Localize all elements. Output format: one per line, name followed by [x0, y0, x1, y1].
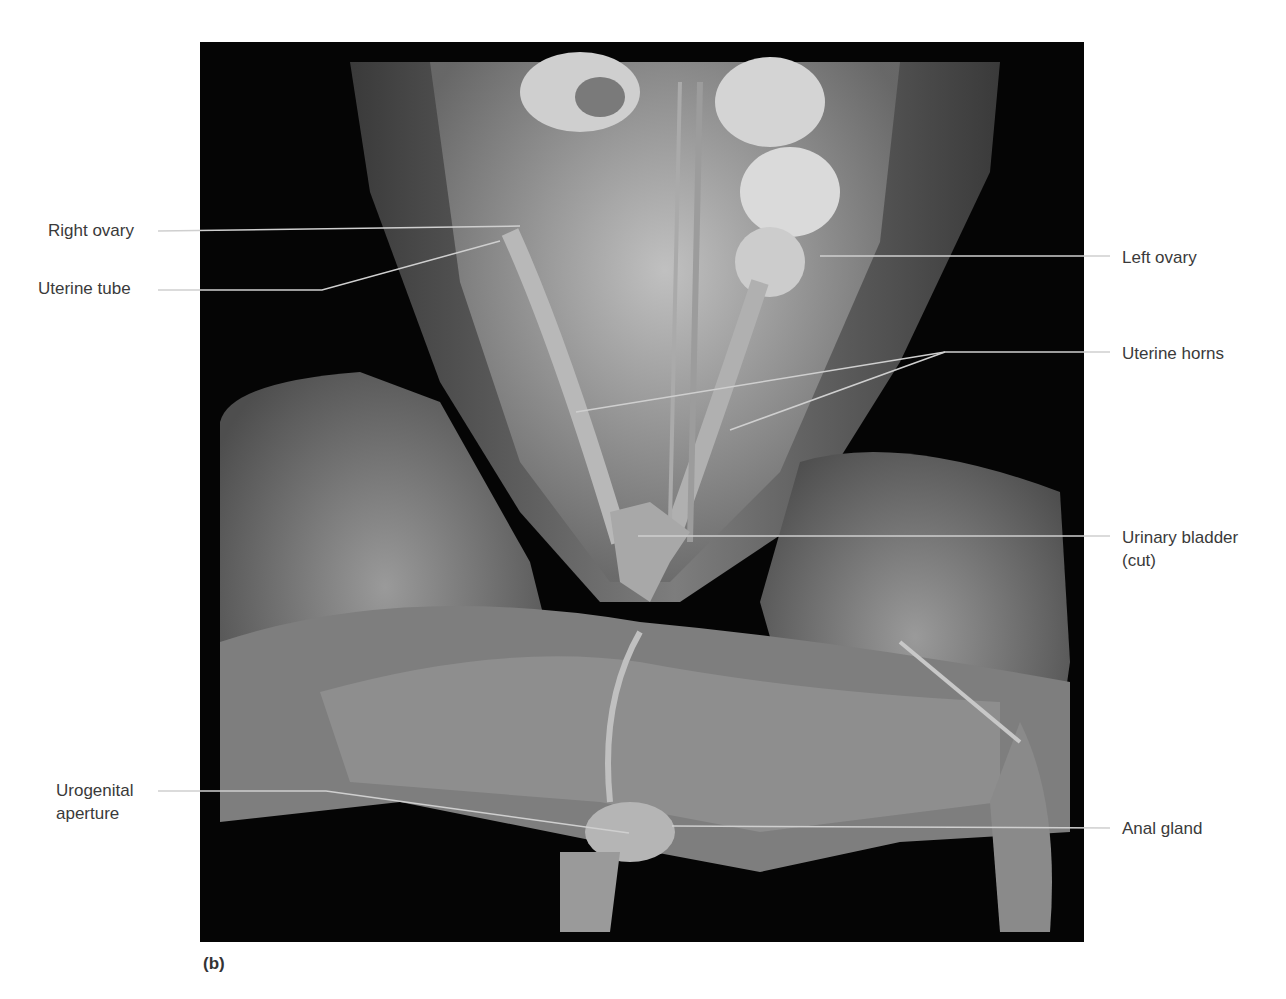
label-urogenital-line2: aperture: [56, 802, 134, 825]
panel-letter: (b): [203, 954, 225, 974]
label-urogenital-line1: Urogenital: [56, 779, 134, 802]
dissection-photo: [200, 42, 1084, 942]
label-left-ovary: Left ovary: [1122, 246, 1197, 269]
label-urinary-bladder-line1: Urinary bladder: [1122, 526, 1238, 549]
label-right-ovary: Right ovary: [48, 219, 134, 242]
label-urinary-bladder-line2: (cut): [1122, 549, 1238, 572]
label-urogenital-aperture: Urogenital aperture: [56, 779, 134, 825]
photo-illustration: [200, 42, 1084, 942]
label-urinary-bladder: Urinary bladder (cut): [1122, 526, 1238, 572]
label-uterine-tube: Uterine tube: [38, 277, 131, 300]
label-anal-gland: Anal gland: [1122, 817, 1202, 840]
label-uterine-horns: Uterine horns: [1122, 342, 1224, 365]
